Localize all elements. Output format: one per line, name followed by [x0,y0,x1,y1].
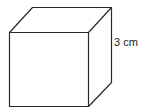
cube-front-face [10,33,89,107]
cube-diagram [0,0,144,109]
edge-length-label: 3 cm [114,36,138,48]
cube-top-face [10,8,112,33]
cube-right-face [89,8,112,107]
